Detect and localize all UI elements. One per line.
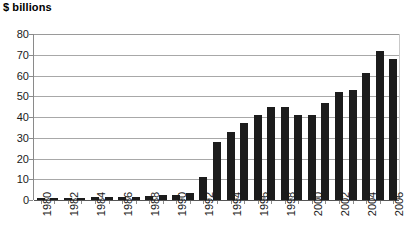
bar-1998 [281, 107, 289, 200]
x-tick-label-1988: 1988 [149, 192, 161, 216]
y-tick-label-0: 0 [1, 195, 29, 206]
y-tick-label-50: 50 [1, 91, 29, 102]
x-axis: 1980198219841986198819901992199419961998… [34, 201, 400, 249]
y-tick-label-20: 20 [1, 154, 29, 165]
bar-1995 [240, 123, 248, 200]
x-tick-label-2000: 2000 [312, 192, 324, 216]
x-tick-mark-1997 [271, 201, 272, 204]
bar-2000 [308, 115, 316, 200]
bar-2003 [349, 90, 357, 200]
bar-2002 [335, 92, 343, 200]
x-tick-label-1982: 1982 [68, 192, 80, 216]
chart-title: $ billions [3, 1, 52, 13]
x-tick-label-1990: 1990 [176, 192, 188, 216]
y-tick-mark-0 [29, 200, 33, 201]
x-tick-2004: 2004 [360, 201, 373, 247]
y-tick-label-80: 80 [1, 29, 29, 40]
x-tick-1988: 1988 [143, 201, 156, 247]
x-tick-mark-1981 [54, 201, 55, 204]
x-tick-label-1986: 1986 [122, 192, 134, 216]
x-tick-label-1980: 1980 [41, 192, 53, 216]
x-tick-mark-2005 [380, 201, 381, 204]
x-tick-mark-2003 [353, 201, 354, 204]
x-tick-2000: 2000 [305, 201, 318, 247]
x-tick-1986: 1986 [116, 201, 129, 247]
x-tick-mark-1991 [190, 201, 191, 204]
y-tick-label-60: 60 [1, 71, 29, 82]
x-tick-mark-1995 [244, 201, 245, 204]
y-tick-label-70: 70 [1, 50, 29, 61]
x-tick-mark-1983 [81, 201, 82, 204]
bar-1996 [254, 115, 262, 200]
x-tick-mark-2001 [325, 201, 326, 204]
bar-2006 [389, 59, 397, 200]
x-tick-label-2006: 2006 [393, 192, 405, 216]
x-tick-1990: 1990 [170, 201, 183, 247]
x-tick-mark-1987 [136, 201, 137, 204]
x-tick-1994: 1994 [224, 201, 237, 247]
bar-2005 [376, 51, 384, 200]
x-tick-label-1984: 1984 [95, 192, 107, 216]
x-tick-1998: 1998 [278, 201, 291, 247]
bar-1997 [267, 107, 275, 200]
x-tick-1996: 1996 [251, 201, 264, 247]
x-tick-2006: 2006 [387, 201, 400, 247]
bar-1994 [227, 132, 235, 201]
x-tick-label-2002: 2002 [339, 192, 351, 216]
x-tick-label-1992: 1992 [203, 192, 215, 216]
bar-2001 [321, 103, 329, 201]
x-tick-label-1994: 1994 [231, 192, 243, 216]
bar-1999 [294, 115, 302, 200]
x-tick-mark-1999 [298, 201, 299, 204]
bar-series [34, 34, 400, 200]
x-tick-label-1996: 1996 [258, 192, 270, 216]
x-tick-label-1998: 1998 [285, 192, 297, 216]
x-tick-mark-1993 [217, 201, 218, 204]
x-tick-1980: 1980 [34, 201, 47, 247]
x-tick-1982: 1982 [61, 201, 74, 247]
x-tick-mark-1989 [163, 201, 164, 204]
y-tick-label-10: 10 [1, 174, 29, 185]
x-tick-label-2004: 2004 [366, 192, 378, 216]
bar-2004 [362, 73, 370, 200]
y-tick-label-40: 40 [1, 112, 29, 123]
x-tick-1984: 1984 [89, 201, 102, 247]
y-tick-label-30: 30 [1, 133, 29, 144]
y-axis: 01020304050607080 [0, 34, 29, 200]
x-tick-2002: 2002 [333, 201, 346, 247]
x-tick-1992: 1992 [197, 201, 210, 247]
x-tick-mark-1985 [109, 201, 110, 204]
